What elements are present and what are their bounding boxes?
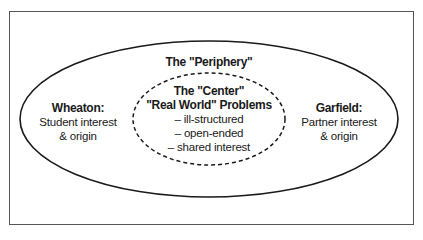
- garfield-line: & origin: [301, 129, 376, 143]
- wheaton-line: & origin: [39, 129, 116, 143]
- garfield-line: Partner interest: [301, 115, 376, 129]
- periphery-title: The "Periphery": [166, 55, 253, 69]
- center-item: – open-ended: [146, 126, 272, 140]
- wheaton-line: Student interest: [39, 115, 116, 129]
- center-title: The "Center": [146, 84, 272, 98]
- center-group: The "Center" "Real World" Problems – ill…: [146, 84, 272, 154]
- garfield-title: Garfield:: [301, 101, 376, 115]
- left-group: Wheaton: Student interest & origin: [39, 101, 116, 143]
- center-subtitle: "Real World" Problems: [146, 98, 272, 112]
- right-group: Garfield: Partner interest & origin: [301, 101, 376, 143]
- wheaton-title: Wheaton:: [39, 101, 116, 115]
- center-item: – shared interest: [146, 140, 272, 154]
- center-item: – ill-structured: [146, 112, 272, 126]
